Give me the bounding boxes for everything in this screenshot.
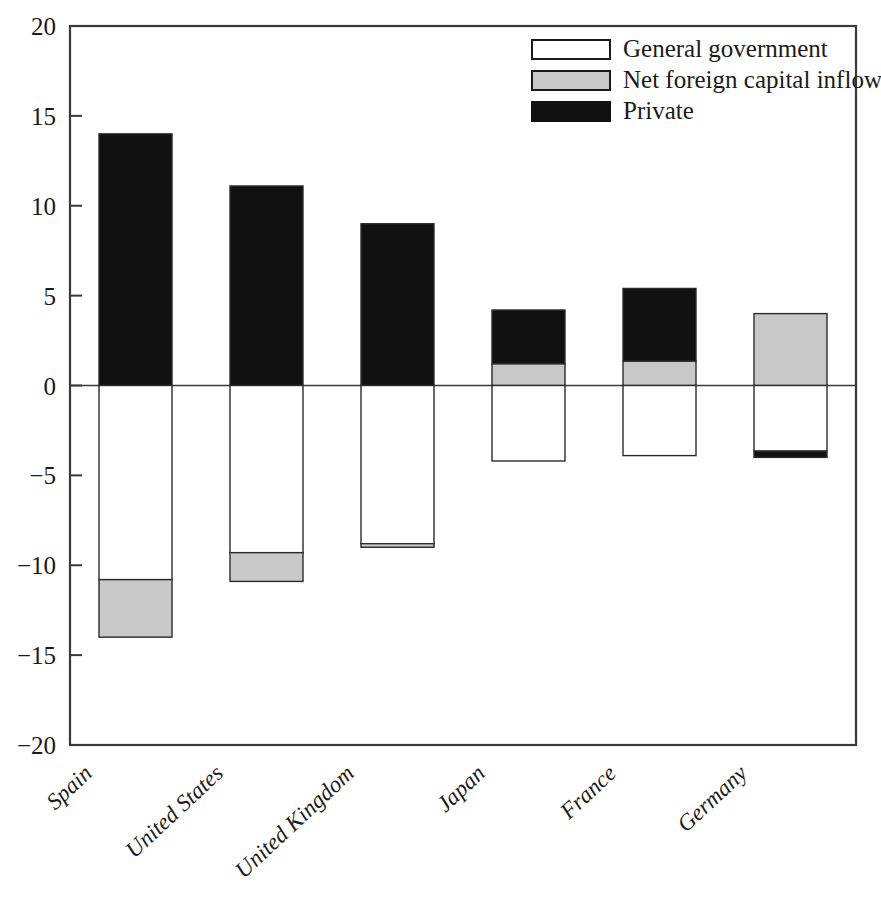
y-axis-tick-label: 0	[44, 373, 57, 400]
bar-segment[interactable]	[623, 288, 696, 361]
bar-stack[interactable]	[754, 314, 827, 458]
bar-segment[interactable]	[492, 310, 565, 364]
bar-stack[interactable]	[361, 224, 434, 548]
bar-segment[interactable]	[754, 386, 827, 452]
chart-canvas: 20151050−5−10−15−20 SpainUnited StatesUn…	[0, 0, 881, 900]
bar-segment[interactable]	[754, 314, 827, 386]
bar-segment[interactable]	[99, 134, 172, 386]
y-axis-tick-label: −15	[17, 642, 56, 669]
legend-label: General government	[623, 35, 828, 62]
bar-segment[interactable]	[230, 386, 303, 553]
x-axis-category-label: France	[555, 760, 621, 824]
bar-segment[interactable]	[361, 544, 434, 548]
legend-swatch	[532, 102, 610, 121]
y-axis-tick-label: −20	[17, 732, 56, 759]
legend-label: Private	[623, 97, 694, 124]
bar-segment[interactable]	[230, 186, 303, 386]
x-axis-category-label: Spain	[42, 760, 97, 814]
x-axis-category-label: Germany	[672, 760, 752, 837]
bar-segment[interactable]	[99, 580, 172, 638]
bar-stack[interactable]	[99, 134, 172, 637]
bar-segment[interactable]	[492, 386, 565, 461]
bar-segment[interactable]	[492, 364, 565, 386]
bar-segment[interactable]	[230, 553, 303, 582]
bar-segment[interactable]	[99, 386, 172, 580]
y-axis-tick-label: −5	[29, 462, 56, 489]
y-axis-tick-label: 5	[44, 283, 57, 310]
bar-stack[interactable]	[623, 288, 696, 455]
legend-swatch	[532, 71, 610, 90]
bar-segment[interactable]	[754, 451, 827, 457]
x-axis-category-label: United Kingdom	[230, 760, 359, 882]
bar-segment[interactable]	[361, 386, 434, 544]
y-axis-tick-label: 20	[31, 13, 56, 40]
legend-swatch	[532, 40, 610, 59]
chart-figure: 20151050−5−10−15−20 SpainUnited StatesUn…	[0, 0, 881, 900]
x-axis-category-label: United States	[121, 760, 228, 862]
x-axis-category-group: SpainUnited StatesUnited KingdomJapanFra…	[42, 760, 753, 883]
bar-segment[interactable]	[623, 361, 696, 385]
y-axis-tick-label: −10	[17, 552, 56, 579]
y-axis-tick-label: 10	[31, 193, 56, 220]
y-axis-tick-label: 15	[31, 103, 56, 130]
x-axis-category-label: Japan	[432, 760, 490, 817]
bar-segment[interactable]	[361, 224, 434, 386]
bar-segment[interactable]	[623, 386, 696, 456]
bar-stack[interactable]	[230, 186, 303, 581]
legend-label: Net foreign capital inflow	[623, 66, 881, 93]
bar-stack[interactable]	[492, 310, 565, 461]
